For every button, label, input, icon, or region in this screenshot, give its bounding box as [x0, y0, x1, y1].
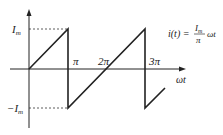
sawtooth-diagram: Im −Im π 2π 3π ωt i(t) = Im π ωt [0, 0, 223, 135]
formula-lhs: i(t) = [168, 28, 189, 40]
pi-tick-label: π [73, 55, 79, 67]
formula-rhs: ωt [207, 29, 216, 39]
three-pi-tick-label: 3π [148, 55, 161, 67]
formula-denominator: π [196, 35, 201, 45]
neg-im-label: −Im [7, 102, 23, 116]
formula-numerator: Im [194, 23, 203, 34]
x-axis-label: ωt [176, 74, 186, 85]
x-axis-arrow-icon [179, 67, 186, 72]
y-axis-arrow-icon [27, 9, 32, 16]
formula: i(t) = Im π ωt [168, 23, 216, 45]
two-pi-tick-label: 2π [98, 55, 110, 67]
im-label: Im [11, 23, 21, 37]
